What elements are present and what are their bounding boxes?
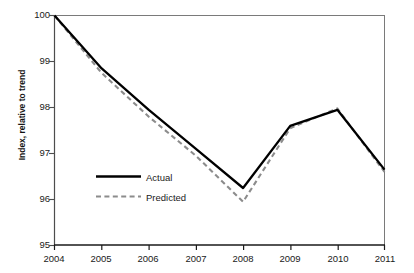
legend <box>96 177 141 197</box>
plot-frame <box>54 15 385 246</box>
chart-plot-svg <box>0 0 414 273</box>
series-line-actual <box>55 16 385 189</box>
series-line-predicted <box>55 16 385 202</box>
chart-container: Index, relative to trend 100 99 98 97 96… <box>0 0 414 273</box>
